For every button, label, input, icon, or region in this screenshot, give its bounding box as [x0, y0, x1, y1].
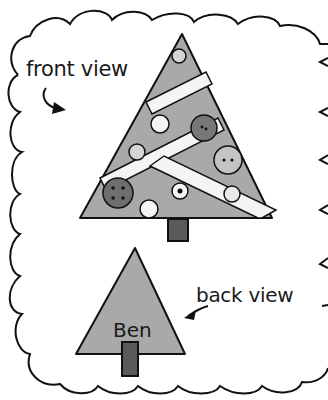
- back-tree-trunk: [122, 342, 138, 376]
- cloud-tips-right: [320, 58, 328, 306]
- front-tree-trunk: [168, 219, 188, 241]
- back-tree: [76, 248, 185, 376]
- front-view-label: front view: [26, 57, 128, 81]
- tree-name-label: Ben: [113, 318, 152, 342]
- back-view-label: back view: [196, 283, 293, 307]
